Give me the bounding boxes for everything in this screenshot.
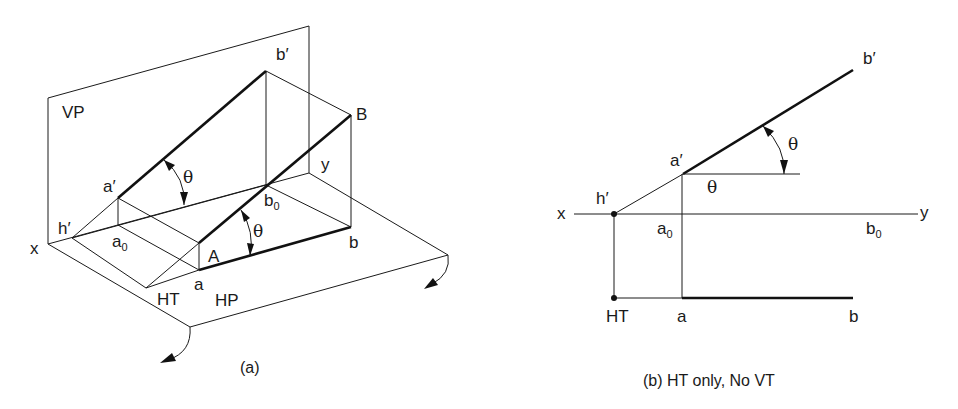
label-ht: HT bbox=[157, 290, 180, 309]
rotation-arrow-right bbox=[432, 255, 448, 284]
label-theta-front: θ bbox=[183, 167, 193, 187]
caption-b: (b) HT only, No VT bbox=[643, 372, 775, 389]
label-x: x bbox=[30, 239, 39, 258]
label-theta-horizontal: θ bbox=[707, 177, 717, 197]
front-view-line bbox=[683, 70, 853, 174]
label-theta-true: θ bbox=[253, 221, 263, 241]
label-y: y bbox=[321, 155, 330, 174]
vertical-plane bbox=[48, 26, 309, 244]
projection-diagram: VP HP x y h′ a′ b′ B A a b HT a0 b0 θ θ … bbox=[0, 0, 958, 409]
label-x: x bbox=[557, 204, 566, 223]
label-b-prime: b′ bbox=[863, 49, 876, 68]
label-a-prime: a′ bbox=[103, 177, 116, 196]
label-a: a bbox=[677, 307, 687, 326]
label-ht: HT bbox=[606, 307, 629, 326]
label-a: a bbox=[194, 275, 204, 294]
label-h-prime: h′ bbox=[596, 189, 609, 208]
label-a0: a0 bbox=[657, 219, 673, 240]
arrowhead-icon bbox=[780, 160, 788, 174]
label-A: A bbox=[208, 247, 220, 266]
label-hp: HP bbox=[215, 291, 239, 310]
arrowhead-icon bbox=[763, 126, 774, 137]
arrowhead-icon bbox=[424, 278, 438, 289]
label-b0: b0 bbox=[866, 219, 882, 240]
point-h-prime bbox=[611, 211, 617, 217]
caption-a: (a) bbox=[240, 359, 260, 376]
true-line-AB bbox=[199, 115, 351, 243]
horizontal-plane bbox=[48, 173, 448, 327]
theta-arc-front bbox=[164, 160, 184, 205]
arrowhead-icon bbox=[180, 192, 188, 205]
label-b: b bbox=[849, 307, 858, 326]
label-b0: b0 bbox=[264, 191, 280, 212]
label-vp: VP bbox=[62, 103, 85, 122]
label-a0: a0 bbox=[112, 232, 128, 253]
label-y: y bbox=[920, 203, 929, 222]
label-a-prime: a′ bbox=[670, 151, 683, 170]
line-a0-a bbox=[118, 225, 199, 270]
point-ht bbox=[611, 295, 617, 301]
line-hprime-ht bbox=[72, 238, 146, 288]
theta-arc bbox=[763, 126, 784, 174]
arrowhead-icon bbox=[241, 210, 250, 222]
line-hprime-aprime bbox=[614, 174, 683, 214]
figure-b: x y h′ a′ b′ HT a b a0 b0 θ θ (b) HT onl… bbox=[557, 49, 929, 389]
top-view-line bbox=[199, 227, 351, 270]
line-aprime-A bbox=[118, 198, 199, 243]
arrowhead-icon bbox=[160, 353, 176, 363]
label-B: B bbox=[356, 105, 367, 124]
figure-a: VP HP x y h′ a′ b′ B A a b HT a0 b0 θ θ … bbox=[30, 26, 448, 376]
label-b: b bbox=[349, 233, 358, 252]
line-ht-a bbox=[146, 270, 199, 288]
label-h-prime: h′ bbox=[58, 219, 71, 238]
label-b-prime: b′ bbox=[276, 45, 289, 64]
label-theta-arc: θ bbox=[788, 134, 798, 154]
